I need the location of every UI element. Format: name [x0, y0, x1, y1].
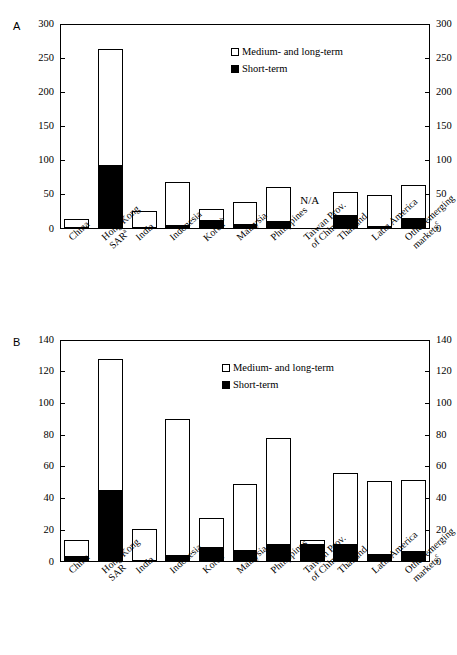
legend-swatch-filled-icon — [231, 65, 239, 73]
y-tick-mark — [60, 498, 65, 499]
y-tick-label-left: 200 — [16, 87, 54, 98]
y-tick-label-left: 120 — [16, 366, 54, 377]
bar-segment-medium-long-term — [367, 481, 392, 555]
y-tick-mark — [425, 194, 430, 195]
y-tick-label-right: 200 — [436, 87, 457, 98]
bar-indonesia — [165, 419, 190, 562]
y-tick-mark — [60, 530, 65, 531]
y-tick-mark — [425, 126, 430, 127]
y-tick-label-left: 150 — [16, 121, 54, 132]
panel-a-x-axis-labels: ChinaHong KongSARaIndiaIndonesiaKoreabMa… — [0, 233, 457, 328]
y-tick-label-left: 100 — [16, 398, 54, 409]
y-tick-mark — [60, 403, 65, 404]
panel-b: B 002020404060608080100100120120140140 M… — [0, 322, 457, 655]
bar-hong-kong-sar — [98, 49, 123, 229]
y-tick-label-left: 140 — [16, 335, 54, 346]
y-tick-mark — [425, 92, 430, 93]
y-tick-mark — [60, 371, 65, 372]
y-tick-label-right: 250 — [436, 53, 457, 64]
y-tick-label-right: 80 — [436, 430, 457, 441]
na-annotation: N/A — [300, 194, 319, 206]
legend-item-short-term: Short-term — [222, 377, 334, 392]
y-tick-label-right: 100 — [436, 155, 457, 166]
bar-segment-medium-long-term — [233, 484, 258, 551]
y-tick-mark — [425, 498, 430, 499]
y-tick-label-right: 40 — [436, 493, 457, 504]
y-tick-mark — [60, 160, 65, 161]
y-tick-mark — [425, 371, 430, 372]
y-tick-label-left: 20 — [16, 525, 54, 536]
y-tick-mark — [425, 160, 430, 161]
panel-a-legend: Medium- and long-termShort-term — [231, 44, 343, 78]
y-tick-label-left: 100 — [16, 155, 54, 166]
y-tick-label-left: 50 — [16, 189, 54, 200]
bar-segment-medium-long-term — [165, 419, 190, 556]
bar-hong-kong-sar — [98, 359, 123, 562]
bar-segment-medium-long-term — [266, 438, 291, 545]
bar-segment-medium-long-term — [98, 359, 123, 491]
y-tick-label-right: 150 — [436, 121, 457, 132]
legend-item-short-term: Short-term — [231, 61, 343, 76]
y-tick-label-left: 80 — [16, 430, 54, 441]
bar-segment-medium-long-term — [98, 49, 123, 167]
y-tick-mark — [425, 530, 430, 531]
y-tick-mark — [60, 466, 65, 467]
y-tick-mark — [60, 435, 65, 436]
panel-b-x-axis-labels: ChinaHong KongSARIndiaIndonesiaKoreaMala… — [0, 566, 457, 655]
legend-swatch-open-icon — [231, 48, 239, 56]
legend-label: Medium- and long-term — [233, 360, 334, 375]
y-tick-mark — [425, 435, 430, 436]
legend-item-medium-long-term: Medium- and long-term — [231, 44, 343, 59]
y-tick-label-left: 250 — [16, 53, 54, 64]
panel-b-legend: Medium- and long-termShort-term — [222, 360, 334, 394]
y-tick-mark — [425, 58, 430, 59]
bar-segment-medium-long-term — [199, 518, 224, 548]
y-tick-label-right: 140 — [436, 335, 457, 346]
legend-item-medium-long-term: Medium- and long-term — [222, 360, 334, 375]
y-tick-mark — [425, 466, 430, 467]
legend-label: Short-term — [233, 377, 279, 392]
legend-swatch-open-icon — [222, 364, 230, 372]
panel-a: A N/A 0050501001001501502002002502503003… — [0, 0, 457, 330]
y-tick-label-right: 120 — [436, 366, 457, 377]
y-tick-label-left: 300 — [16, 19, 54, 30]
y-tick-mark — [60, 92, 65, 93]
y-tick-label-right: 60 — [436, 461, 457, 472]
y-tick-label-right: 100 — [436, 398, 457, 409]
y-tick-mark — [60, 58, 65, 59]
y-tick-mark — [60, 126, 65, 127]
legend-label: Short-term — [242, 61, 288, 76]
y-tick-label-left: 40 — [16, 493, 54, 504]
bar-philippines — [266, 438, 291, 562]
y-tick-mark — [60, 194, 65, 195]
legend-label: Medium- and long-term — [242, 44, 343, 59]
y-tick-label-right: 300 — [436, 19, 457, 30]
y-tick-mark — [425, 403, 430, 404]
y-tick-label-left: 60 — [16, 461, 54, 472]
legend-swatch-filled-icon — [222, 381, 230, 389]
